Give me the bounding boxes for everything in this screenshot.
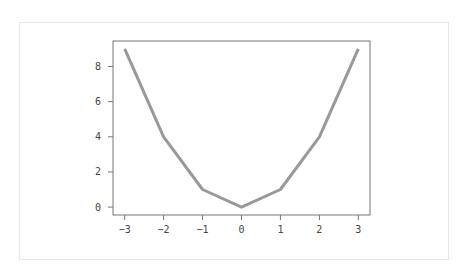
data-line <box>125 49 359 207</box>
x-tick-label: −3 <box>119 224 131 235</box>
y-tick-label: 0 <box>95 202 101 213</box>
x-tick-label: 0 <box>238 224 244 235</box>
y-axis: 02468 <box>95 61 113 213</box>
line-chart: 02468 −3−2−10123 <box>0 0 470 280</box>
x-tick-label: 1 <box>277 224 283 235</box>
x-tick-label: 3 <box>355 224 361 235</box>
x-tick-label: −2 <box>158 224 170 235</box>
x-tick-label: −1 <box>197 224 209 235</box>
y-tick-label: 6 <box>95 96 101 107</box>
plot-area <box>113 41 370 215</box>
y-tick-label: 4 <box>95 131 101 142</box>
x-axis: −3−2−10123 <box>119 215 362 235</box>
x-tick-label: 2 <box>316 224 322 235</box>
y-tick-label: 8 <box>95 61 101 72</box>
y-tick-label: 2 <box>95 166 101 177</box>
